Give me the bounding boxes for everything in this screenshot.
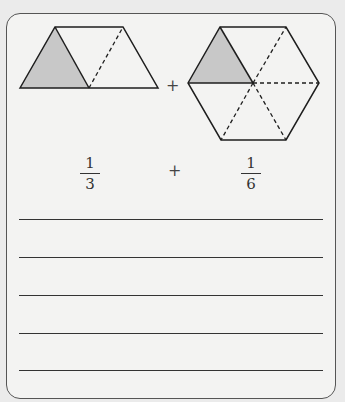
- fraction-figures: [0, 0, 345, 402]
- trapezoid-dashed-divider: [89, 27, 123, 88]
- shaded-triangle-third: [20, 27, 89, 88]
- answer-line: [19, 219, 323, 220]
- fraction-bar: [80, 173, 100, 174]
- hexagon-dashed-divider: [221, 83, 253, 140]
- denominator: 6: [241, 176, 261, 193]
- trapezoid-figure: [20, 27, 158, 88]
- numerator: 1: [241, 155, 261, 172]
- hexagon-dashed-divider: [253, 27, 286, 83]
- answer-line: [19, 257, 323, 258]
- answer-line: [19, 333, 323, 334]
- hexagon-dashed-divider: [253, 83, 286, 140]
- shaded-triangle-sixth: [188, 27, 253, 83]
- numerator: 1: [80, 155, 100, 172]
- plus-sign-figures: +: [166, 76, 179, 95]
- denominator: 3: [80, 176, 100, 193]
- answer-line: [19, 295, 323, 296]
- hexagon-figure: [188, 27, 319, 140]
- fraction-bar: [241, 173, 261, 174]
- plus-sign-expression: +: [168, 161, 181, 180]
- fraction-one-sixth: 1 6: [241, 155, 261, 193]
- answer-line: [19, 370, 323, 371]
- fraction-one-third: 1 3: [80, 155, 100, 193]
